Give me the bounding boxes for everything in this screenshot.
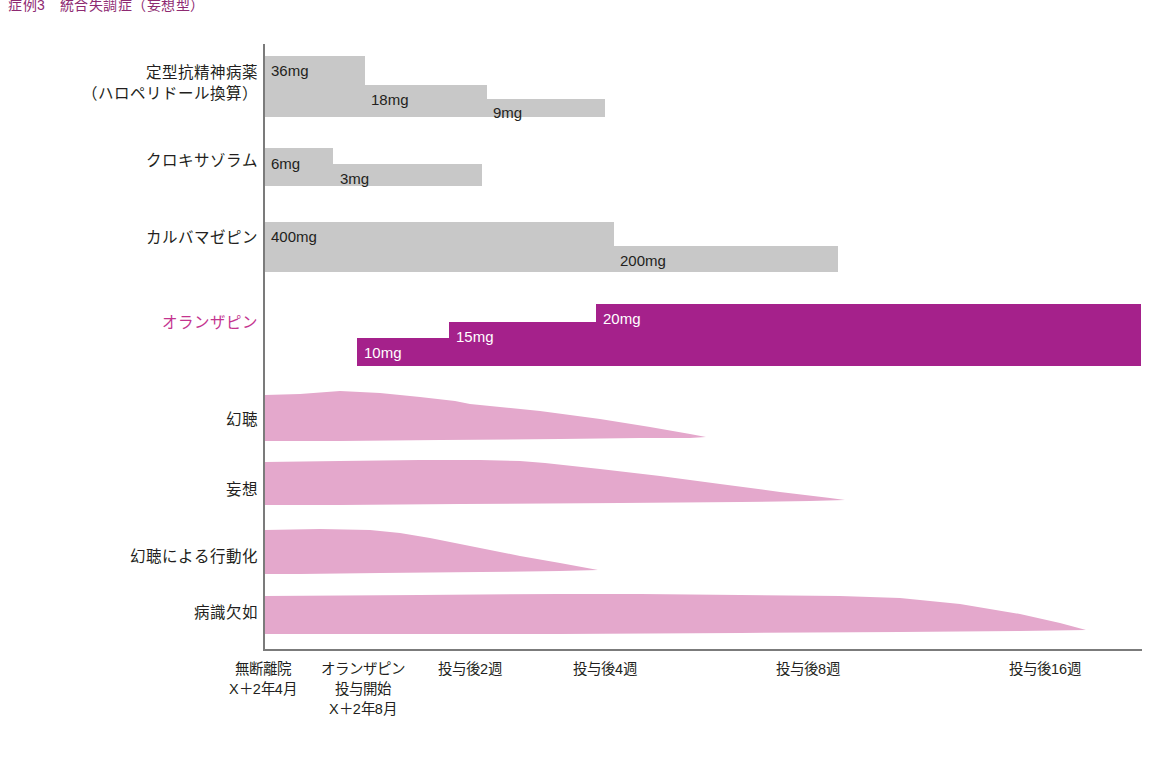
x-tick-label-5: 投与後16週 <box>975 659 1115 679</box>
dose-label-carbamazepine-1: 400mg <box>271 229 317 244</box>
symptom-band-delusion <box>265 460 845 505</box>
dose-band-typical-antipsychotic <box>265 56 605 117</box>
dose-label-carbamazepine-2: 200mg <box>620 253 666 268</box>
x-tick-label-4: 投与後8週 <box>743 659 873 679</box>
dose-label-olanzapine-3: 20mg <box>603 311 641 326</box>
x-tick-label-2: 投与後2週 <box>405 659 535 679</box>
dose-label-typical-3: 9mg <box>493 105 522 120</box>
case-timeline-chart: 症例3 統合失調症（妄想型） 定型抗精神病薬 （ハロペリドール換算） クロキサゾ… <box>0 0 1164 759</box>
symptom-band-lack-of-insight <box>265 594 1086 634</box>
symptom-band-auditory-hallucination <box>265 391 706 441</box>
dose-label-olanzapine-1: 10mg <box>364 345 402 360</box>
dose-label-olanzapine-2: 15mg <box>456 329 494 344</box>
dose-label-typical-1: 36mg <box>271 63 309 78</box>
dose-label-typical-2: 18mg <box>371 92 409 107</box>
chart-bands <box>0 0 1164 759</box>
symptom-band-acting-out-from-hallucination <box>265 529 598 574</box>
dose-band-carbamazepine <box>265 222 838 272</box>
dose-label-cloxazolam-2: 3mg <box>340 171 369 186</box>
dose-label-cloxazolam-1: 6mg <box>271 156 300 171</box>
x-tick-label-3: 投与後4週 <box>540 659 670 679</box>
